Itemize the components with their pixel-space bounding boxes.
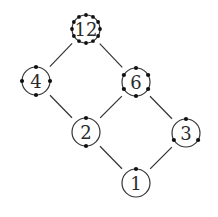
node-1: 1 [122,167,150,197]
edge-12-4 [50,43,72,66]
divisor-dot [20,79,24,83]
divisor-dot [70,27,74,31]
node-6: 6 [122,66,150,98]
node-label: 3 [180,123,191,144]
edge-12-6 [100,44,123,68]
node-label: 2 [80,122,91,143]
divisor-dot [134,94,138,98]
divisor-dot [77,39,81,43]
divisor-dot [34,65,38,69]
node-3: 3 [172,117,200,147]
node-label: 1 [130,173,141,194]
divisor-dot [98,27,102,31]
divisor-dot [122,87,126,91]
edge-6-2 [100,96,122,118]
divisor-dot [34,93,38,97]
hasse-diagram: 1246231 [0,0,218,217]
node-12: 12 [70,13,102,45]
node-label: 4 [30,71,41,92]
edge-3-1 [150,147,172,169]
divisor-dot [134,66,138,70]
divisor-dot [84,13,88,17]
divisor-dot [84,116,88,120]
node-label: 12 [75,19,98,40]
divisor-dot [146,73,150,77]
divisor-dot [84,41,88,45]
divisor-dot [184,117,188,121]
nodes: 1246231 [20,13,200,197]
divisor-dot [91,39,95,43]
divisor-dot [146,87,150,91]
edges [50,43,172,168]
divisor-dot [48,79,52,83]
node-label: 6 [130,72,141,93]
node-2: 2 [72,116,100,148]
divisor-dot [172,138,176,142]
divisor-dot [84,144,88,148]
edge-6-3 [150,96,172,118]
divisor-dot [196,138,200,142]
divisor-dot [134,167,138,171]
edge-2-1 [100,146,122,168]
node-4: 4 [20,65,52,97]
edge-4-2 [50,95,72,117]
divisor-dot [122,73,126,77]
